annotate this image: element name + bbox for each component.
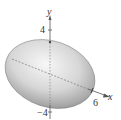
x-axis-label: x — [107, 91, 113, 102]
ellipsoid-surface — [0, 28, 104, 119]
y-axis-label: y — [46, 6, 52, 17]
ellipsoid-diagram: y 4 −4 x 6 — [0, 0, 121, 120]
y-tick-label-bottom: −4 — [37, 107, 48, 118]
y-tick-label-top: 4 — [40, 24, 45, 35]
x-tick-label: 6 — [93, 97, 98, 108]
top-pole-point — [49, 41, 51, 43]
